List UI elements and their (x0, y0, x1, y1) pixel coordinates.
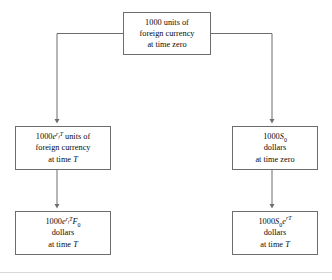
node-line: dollars (52, 227, 75, 238)
formula-suffix: units of (63, 132, 90, 141)
node-time-symbol: T (73, 240, 78, 249)
branch-right-connector (211, 34, 272, 121)
node-dollars-at-time-zero: 1000S0 dollars at time zero (232, 126, 318, 170)
formula-coefficient: 1000 (258, 217, 275, 226)
node-domestically-invested-dollars: 1000S0erT dollars at time T (232, 211, 318, 255)
node-formula: 1000S0 (263, 131, 287, 142)
node-line: foreign currency (35, 142, 90, 153)
node-line: at time zero (147, 39, 186, 50)
node-line: dollars (264, 142, 287, 153)
footer-divider (0, 272, 332, 273)
currency-arbitrage-flowchart: 1000 units of foreign currency at time z… (0, 0, 332, 280)
node-formula: 1000S0erT (258, 216, 291, 227)
formula-exponent: rfT (56, 131, 63, 137)
node-time-label: at time (48, 240, 73, 249)
node-time-symbol: T (285, 240, 290, 249)
node-forward-converted-dollars: 1000erfTF0 dollars at time T (15, 211, 111, 255)
formula-coefficient: 1000 (45, 217, 62, 226)
node-time-label: at time (48, 155, 73, 164)
formula-coefficient: 1000 (36, 132, 53, 141)
node-line: at time zero (255, 154, 294, 165)
node-initial-foreign-currency: 1000 units of foreign currency at time z… (123, 12, 211, 55)
node-line: at time T (48, 239, 78, 250)
node-time-symbol: T (73, 155, 78, 164)
node-foreign-currency-at-time-T: 1000erfT units of foreign currency at ti… (15, 126, 111, 170)
formula-forward-subscript: 0 (78, 222, 81, 228)
node-time-label: at time (260, 240, 285, 249)
node-line: dollars (264, 227, 287, 238)
formula-exponent: rfT (66, 216, 73, 222)
formula-exponent: rT (286, 216, 292, 222)
exponent-time: T (288, 216, 291, 222)
node-formula: 1000erfTF0 (45, 216, 80, 227)
formula-coefficient: 1000 (263, 132, 280, 141)
node-line: at time T (260, 239, 290, 250)
node-line: 1000 units of (145, 17, 189, 28)
node-line: foreign currency (139, 28, 194, 39)
node-formula: 1000erfT units of (36, 131, 90, 142)
node-line: at time T (48, 154, 78, 165)
branch-left-connector (57, 34, 123, 121)
